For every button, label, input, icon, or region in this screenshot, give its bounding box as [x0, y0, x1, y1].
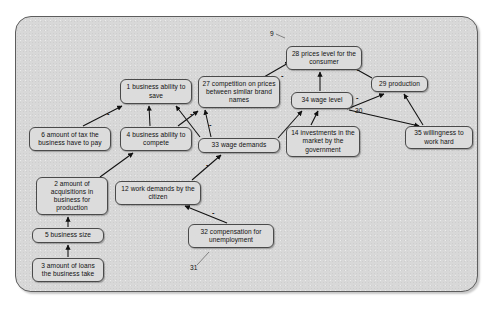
- edge-label-31: 31: [190, 264, 197, 271]
- sign-27-to-28: -: [281, 72, 284, 79]
- node-label: 29 production: [375, 80, 424, 88]
- node-label: 6 amount of tax the business have to pay: [33, 131, 107, 147]
- node-label: 5 business size: [36, 231, 100, 239]
- node-35-willingness-to-work-hard[interactable]: 35 willingness to work hard: [405, 126, 473, 149]
- node-label: 27 competition on prices between similar…: [202, 80, 276, 104]
- node-label: 2 amount of acquisitions in business for…: [40, 180, 104, 212]
- diagram-canvas: 1 business ability to save 27 competitio…: [0, 0, 496, 316]
- node-6-amount-of-tax[interactable]: 6 amount of tax the business have to pay: [29, 127, 111, 151]
- node-5-business-size[interactable]: 5 business size: [32, 228, 104, 243]
- node-label: 32 compensation for unemployment: [192, 228, 270, 244]
- node-4-business-ability-to-compete[interactable]: 4 business ability to compete: [120, 127, 192, 151]
- node-2-amount-of-acquisitions[interactable]: 2 amount of acquisitions in business for…: [36, 177, 108, 215]
- node-27-competition-on-prices[interactable]: 27 competition on prices between similar…: [198, 76, 280, 108]
- node-12-work-demands-by-citizen[interactable]: 12 work demands by the citizen: [115, 181, 201, 205]
- node-33-wage-demands[interactable]: 33 wage demands: [198, 138, 280, 153]
- sign-12-to-33: -: [206, 161, 209, 168]
- sign-33-to-27: -: [209, 121, 212, 128]
- node-label: 3 amount of loans the business take: [36, 262, 100, 278]
- edge-label-9: 9: [270, 30, 274, 37]
- node-14-investments-in-the-market[interactable]: 14 investments in the market by the gove…: [286, 126, 360, 157]
- diagram-frame: [15, 16, 478, 292]
- node-label: 34 wage level: [295, 96, 349, 104]
- node-1-business-ability-to-save[interactable]: 1 business ability to save: [120, 79, 192, 104]
- node-label: 33 wage demands: [202, 141, 276, 149]
- node-3-amount-of-loans[interactable]: 3 amount of loans the business take: [32, 258, 104, 282]
- node-29-production[interactable]: 29 production: [371, 76, 428, 92]
- sign-34-to-29: -: [356, 94, 359, 101]
- node-32-compensation-for-unemployment[interactable]: 32 compensation for unemployment: [188, 224, 274, 248]
- sign-4-to-27: -: [190, 110, 193, 117]
- sign-32-to-12: -: [212, 209, 215, 216]
- node-label: 28 prices level for the consumer: [290, 50, 358, 66]
- node-label: 14 investments in the market by the gove…: [290, 129, 356, 153]
- node-label: 35 willingness to work hard: [409, 129, 469, 145]
- sign-6-to-1: -: [107, 110, 110, 117]
- node-label: 4 business ability to compete: [124, 131, 188, 147]
- sign-29-to-28: -: [357, 66, 360, 73]
- node-label: 1 business ability to save: [124, 83, 188, 99]
- edge-label-30: 30: [355, 107, 362, 114]
- node-label: 12 work demands by the citizen: [119, 185, 197, 201]
- node-28-prices-level-for-consumer[interactable]: 28 prices level for the consumer: [286, 46, 362, 70]
- node-34-wage-level[interactable]: 34 wage level: [291, 92, 353, 109]
